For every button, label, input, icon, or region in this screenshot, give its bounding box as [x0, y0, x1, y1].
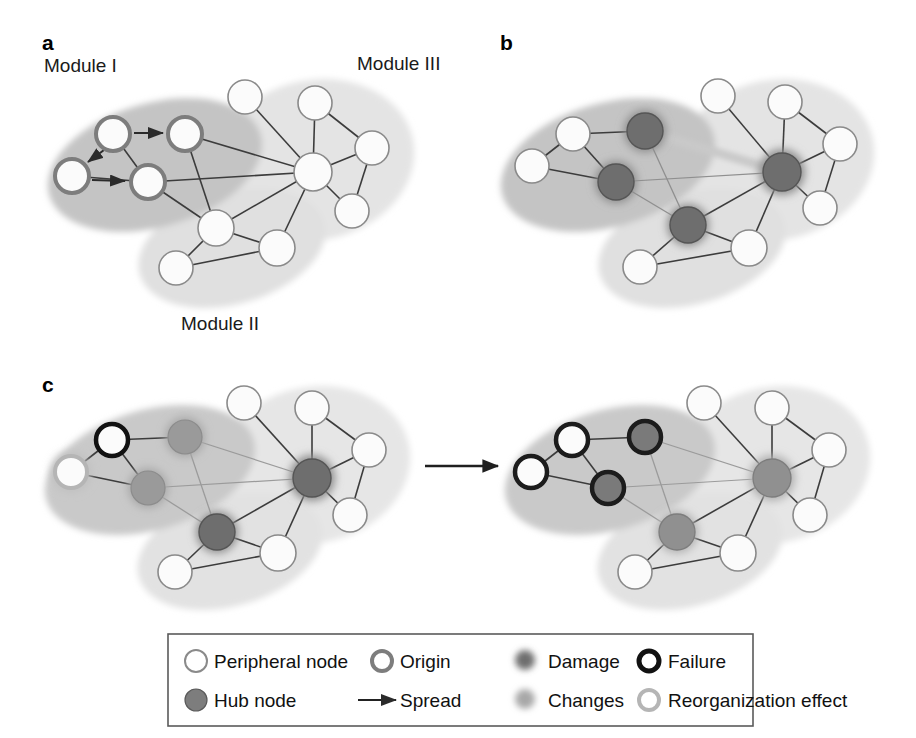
reorganization-icon — [639, 690, 659, 710]
node-changes — [131, 471, 165, 505]
figure-root: a Module I Module III Module II — [0, 0, 916, 738]
legend-label-hub: Hub node — [214, 690, 296, 711]
node-peripheral — [335, 194, 369, 228]
node-origin — [96, 117, 130, 151]
legend-label-reorganization: Reorganization effect — [668, 690, 848, 711]
node-damage-hub — [199, 514, 235, 550]
node-peripheral — [556, 117, 590, 151]
node-peripheral — [731, 230, 767, 266]
legend-label-damage: Damage — [548, 651, 620, 672]
hub-node-icon — [185, 689, 207, 711]
node-peripheral — [793, 498, 827, 532]
module-1-label-a: Module I — [44, 55, 117, 76]
legend-label-peripheral: Peripheral node — [214, 651, 348, 672]
module-3-label-a: Module III — [357, 53, 440, 74]
node-changes-hub — [659, 514, 695, 550]
node-peripheral — [812, 433, 846, 467]
node-damage-hub — [670, 207, 706, 243]
legend-item-origin: Origin — [372, 651, 451, 672]
network-figure: a Module I Module III Module II — [0, 0, 916, 738]
node-peripheral — [515, 149, 549, 183]
node-changes — [168, 420, 202, 454]
node-peripheral — [755, 391, 789, 425]
node-damage — [598, 164, 634, 200]
node-peripheral — [159, 251, 193, 285]
node-peripheral — [823, 127, 857, 161]
node-peripheral — [623, 250, 657, 284]
node-origin — [131, 165, 165, 199]
node-peripheral — [260, 535, 296, 571]
node-peripheral — [227, 386, 261, 420]
node-reorganization — [55, 456, 87, 488]
node-peripheral — [618, 555, 652, 589]
legend-label-changes: Changes — [548, 690, 624, 711]
legend-item-reorganization: Reorganization effect — [639, 690, 848, 711]
spread-arrow-3 — [92, 180, 125, 181]
peripheral-node-icon — [185, 650, 207, 672]
node-peripheral — [158, 555, 192, 589]
node-damage-failure — [629, 421, 661, 453]
panel-a-letter: a — [42, 31, 54, 54]
node-peripheral — [355, 131, 389, 165]
node-origin — [55, 159, 89, 193]
legend-label-origin: Origin — [400, 651, 451, 672]
node-peripheral — [352, 433, 386, 467]
origin-node-icon — [372, 651, 392, 671]
legend-item-hub: Hub node — [185, 689, 296, 711]
node-hub — [294, 153, 332, 191]
node-peripheral — [701, 79, 735, 113]
node-peripheral — [768, 85, 802, 119]
node-peripheral — [333, 498, 367, 532]
node-peripheral — [259, 230, 295, 266]
legend-label-spread: Spread — [400, 690, 461, 711]
module-2-label-a: Module II — [181, 313, 259, 334]
changes-icon — [515, 689, 535, 709]
damage-icon — [515, 650, 535, 670]
node-failure — [556, 424, 588, 456]
node-hub — [198, 210, 234, 246]
node-peripheral — [803, 191, 837, 225]
legend-item-failure: Failure — [639, 651, 726, 672]
node-peripheral — [228, 80, 262, 114]
panel-b-letter: b — [500, 31, 513, 54]
node-failure — [515, 456, 547, 488]
node-damage-hub — [293, 459, 331, 497]
node-peripheral — [298, 86, 332, 120]
node-damage-failure — [592, 472, 624, 504]
legend-border — [168, 634, 753, 726]
node-changes-hub — [753, 459, 791, 497]
node-damage — [627, 113, 663, 149]
node-damage-hub — [763, 153, 801, 191]
node-peripheral — [295, 391, 329, 425]
panel-c-letter: c — [42, 373, 54, 396]
legend-box: Peripheral node Hub node Origin Spread D… — [168, 634, 848, 726]
legend-label-failure: Failure — [668, 651, 726, 672]
node-peripheral — [687, 386, 721, 420]
node-origin — [168, 117, 202, 151]
node-failure — [96, 424, 128, 456]
failure-icon — [639, 651, 659, 671]
node-peripheral — [720, 535, 756, 571]
